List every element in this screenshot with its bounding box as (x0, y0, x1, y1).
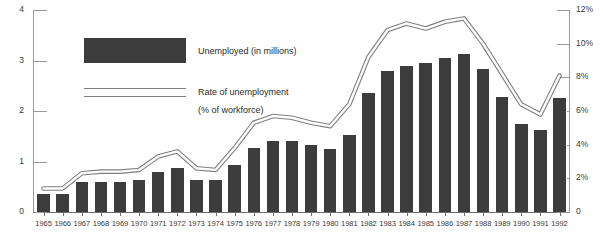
x-axis-label: 1989 (493, 219, 512, 233)
x-axis-label: 1978 (282, 219, 301, 233)
x-tick (139, 212, 140, 216)
x-axis-label: 1969 (110, 219, 129, 233)
x-axis-label: 1991 (531, 219, 550, 233)
x-tick (330, 212, 331, 216)
y-right-tick-label: 12% (576, 5, 593, 14)
x-tick (273, 212, 274, 216)
x-tick (292, 212, 293, 216)
x-tick (82, 212, 83, 216)
x-tick (368, 212, 369, 216)
x-tick (540, 212, 541, 216)
x-axis-label: 1992 (550, 219, 569, 233)
y-right-tick-label: 8% (576, 72, 588, 81)
x-tick (521, 212, 522, 216)
x-tick (311, 212, 312, 216)
unemployment-chart: 01234 02%4%6%8%10%12% 196519661967196819… (0, 0, 603, 240)
x-tick (407, 212, 408, 216)
x-axis-label: 1971 (149, 219, 168, 233)
x-axis-label: 1974 (206, 219, 225, 233)
x-tick (445, 212, 446, 216)
x-axis-label: 1968 (91, 219, 110, 233)
x-tick (560, 212, 561, 216)
legend-swatch-line-icon (84, 88, 186, 97)
legend-swatch-bar-icon (84, 38, 186, 63)
legend-label-line: Rate of unemployment (198, 86, 289, 98)
x-axis-label: 1987 (454, 219, 473, 233)
y-left-tick-label: 2 (19, 106, 24, 115)
x-tick (101, 212, 102, 216)
x-tick (349, 212, 350, 216)
x-tick (177, 212, 178, 216)
y-left-tick-label: 1 (19, 157, 24, 166)
x-axis-label: 1973 (187, 219, 206, 233)
x-tick (63, 212, 64, 216)
x-tick (254, 212, 255, 216)
x-axis-label: 1972 (168, 219, 187, 233)
x-tick (388, 212, 389, 216)
x-axis-label: 1965 (34, 219, 53, 233)
x-axis-label: 1986 (435, 219, 454, 233)
x-axis-label: 1966 (53, 219, 72, 233)
legend-label-line-sub: (% of workforce) (198, 104, 264, 116)
y-right-tick-label: 10% (576, 39, 593, 48)
x-tick (426, 212, 427, 216)
y-left-tick-label: 0 (19, 207, 24, 216)
x-axis-label: 1985 (416, 219, 435, 233)
x-axis-label: 1990 (512, 219, 531, 233)
x-axis-label: 1988 (474, 219, 493, 233)
x-tick (158, 212, 159, 216)
x-axis-label: 1982 (359, 219, 378, 233)
x-axis-label: 1970 (130, 219, 149, 233)
x-tick (464, 212, 465, 216)
y-left-tick-label: 3 (19, 56, 24, 65)
x-tick (216, 212, 217, 216)
x-tick (502, 212, 503, 216)
x-axis-labels: 1965196619671968196919701971197219731974… (34, 219, 569, 233)
y-left-tick (34, 212, 47, 213)
legend-entry-bar: Unemployed (in millions) (84, 38, 297, 63)
x-axis-label: 1983 (378, 219, 397, 233)
x-axis-label: 1975 (225, 219, 244, 233)
legend-label-bar: Unemployed (in millions) (198, 45, 297, 57)
x-axis-label: 1967 (72, 219, 91, 233)
y-right-tick-label: 0 (576, 207, 581, 216)
y-right-tick-label: 4% (576, 140, 588, 149)
x-tick (235, 212, 236, 216)
x-axis (33, 212, 570, 213)
y-left-tick-label: 4 (19, 5, 24, 14)
chart-legend: Unemployed (in millions) Rate of unemplo… (84, 38, 297, 63)
x-axis-label: 1981 (340, 219, 359, 233)
x-tick (120, 212, 121, 216)
x-tick (196, 212, 197, 216)
x-tick (483, 212, 484, 216)
x-axis-label: 1979 (302, 219, 321, 233)
x-axis-label: 1980 (321, 219, 340, 233)
y-right-tick-label: 2% (576, 173, 588, 182)
x-axis-label: 1984 (397, 219, 416, 233)
x-axis-label: 1976 (244, 219, 263, 233)
x-tick (44, 212, 45, 216)
y-right-tick-label: 6% (576, 106, 588, 115)
x-axis-label: 1977 (263, 219, 282, 233)
legend-entry-line: Rate of unemployment (84, 86, 289, 98)
